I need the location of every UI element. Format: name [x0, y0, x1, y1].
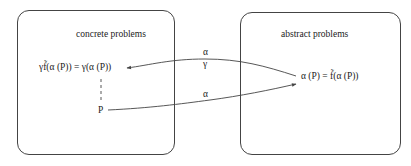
alpha-arrow: [108, 84, 296, 110]
gamma-arrow: [127, 59, 296, 76]
arrows-layer: [0, 0, 411, 166]
